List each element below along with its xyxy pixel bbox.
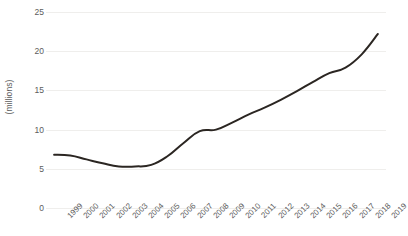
x-axis-tick-label: 2004 [147,202,165,220]
x-axis-tick-label: 2007 [196,202,214,220]
x-axis-tick-label: 2009 [228,202,246,220]
x-axis-tick-label: 2012 [277,202,295,220]
y-axis-tick-label: 0 [20,204,44,213]
y-axis-tick-label: 20 [20,47,44,56]
x-axis-tick-label: 2014 [309,202,327,220]
x-axis-tick-label: 2018 [374,202,392,220]
x-axis-tick-label: 2016 [342,202,360,220]
y-axis-tick-labels: 0510152025 [0,0,44,236]
x-axis-tick-label: 2008 [212,202,230,220]
x-axis-tick-label: 2019 [390,202,408,220]
y-axis-tick-label: 25 [20,8,44,17]
x-axis-tick-label: 2000 [82,202,100,220]
plot-area [46,12,386,208]
x-axis-tick-label: 1999 [66,202,84,220]
x-axis-tick-label: 2001 [99,202,117,220]
x-axis-tick-labels: 1999200020012002200320042005200620072008… [46,202,386,236]
x-axis-tick-label: 2005 [163,202,181,220]
x-axis-tick-label: 2011 [260,202,278,220]
y-axis-tick-label: 15 [20,86,44,95]
y-axis-tick-label: 5 [20,165,44,174]
x-axis-tick-label: 2013 [293,202,311,220]
series-line [46,12,386,208]
x-axis-tick-label: 2015 [325,202,343,220]
x-axis-tick-label: 2002 [115,202,133,220]
y-axis-tick-label: 10 [20,125,44,134]
x-axis-tick-label: 2006 [180,202,198,220]
series-path [54,34,378,167]
x-axis-tick-label: 2017 [358,202,376,220]
x-axis-tick-label: 2003 [131,202,149,220]
